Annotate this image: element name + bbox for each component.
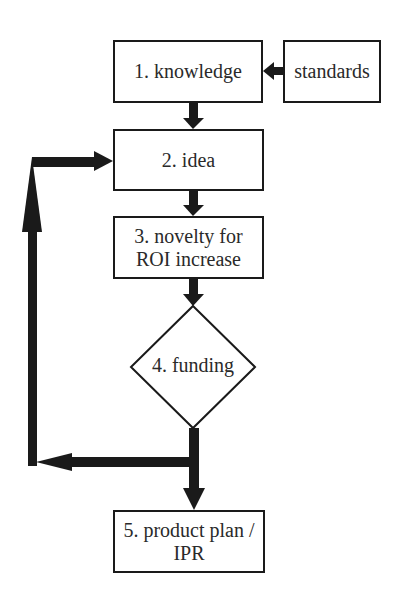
node-standards: standards [283, 40, 381, 103]
arrow-idea-to-novelty [183, 190, 204, 216]
arrow-standards-to-knowledge [263, 62, 285, 80]
arrow-funding-to-product-plan [183, 428, 205, 510]
node-novelty-line1: 3. novelty for [134, 225, 242, 247]
node-funding-label: 4. funding [131, 354, 255, 377]
node-novelty: 3. novelty for ROI increase [113, 216, 264, 279]
node-novelty-line2: ROI increase [136, 248, 241, 270]
arrow-novelty-to-funding [183, 278, 204, 306]
node-product-plan-line2: IPR [173, 542, 204, 564]
arrow-knowledge-to-idea [183, 102, 204, 129]
flowchart: 1. knowledge standards 2. idea 3. novelt… [0, 0, 401, 601]
arrow-feedback-loop-to-idea [22, 151, 190, 471]
node-idea-label: 2. idea [162, 149, 215, 171]
node-standards-label: standards [294, 60, 370, 82]
node-product-plan: 5. product plan / IPR [113, 510, 265, 573]
node-idea: 2. idea [113, 129, 264, 191]
node-product-plan-line1: 5. product plan / [123, 519, 254, 541]
node-knowledge-label: 1. knowledge [134, 60, 242, 82]
node-knowledge: 1. knowledge [113, 40, 263, 103]
